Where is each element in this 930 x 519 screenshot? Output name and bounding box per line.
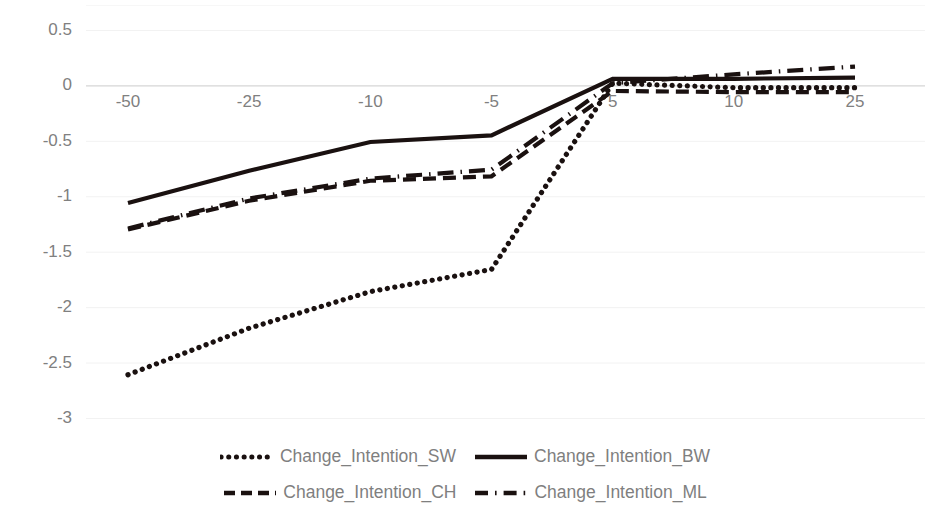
chart-legend: Change_Intention_SWChange_Intention_BWCh… [0, 440, 930, 519]
y-tick-label: -3 [0, 409, 72, 426]
y-tick-label: -0.5 [0, 132, 72, 149]
legend-item-change-intention-sw[interactable]: Change_Intention_SW [220, 448, 456, 466]
gridlines-group [86, 6, 925, 419]
legend-line-swatch-dash-dot [474, 486, 528, 500]
legend-row: Change_Intention_CHChange_Intention_ML [0, 484, 930, 502]
chart-container: 0.50-0.5-1-1.5-2-2.5-3 -50-25-10-551025 … [0, 0, 930, 519]
legend-item-change-intention-ch[interactable]: Change_Intention_CH [223, 484, 456, 502]
legend-item-label: Change_Intention_BW [534, 448, 710, 466]
legend-line-swatch-dashed [223, 486, 277, 500]
legend-item-change-intention-ml[interactable]: Change_Intention_ML [474, 484, 706, 502]
y-tick-label: -2.5 [0, 354, 72, 371]
legend-row: Change_Intention_SWChange_Intention_BW [0, 448, 930, 466]
y-tick-label: -1.5 [0, 243, 72, 260]
legend-line-swatch-solid [474, 450, 528, 464]
legend-item-label: Change_Intention_CH [283, 484, 456, 502]
series-line-change-intention-sw [128, 83, 855, 375]
legend-item-change-intention-bw[interactable]: Change_Intention_BW [474, 448, 710, 466]
plot-area [0, 0, 930, 440]
legend-line-swatch-dotted [220, 450, 274, 464]
legend-item-label: Change_Intention_ML [534, 484, 706, 502]
x-tick-label: 25 [815, 93, 895, 110]
series-line-change-intention-ch [128, 91, 855, 230]
y-tick-label: -2 [0, 298, 72, 315]
y-tick-label: -1 [0, 187, 72, 204]
y-tick-label: 0 [0, 76, 72, 93]
x-tick-label: 10 [694, 93, 774, 110]
legend-item-label: Change_Intention_SW [280, 448, 456, 466]
x-tick-label: -50 [88, 93, 168, 110]
series-group [128, 67, 855, 375]
x-tick-label: -5 [452, 93, 532, 110]
x-tick-label: -25 [209, 93, 289, 110]
y-tick-label: 0.5 [0, 21, 72, 38]
x-tick-label: 5 [573, 93, 653, 110]
x-tick-label: -10 [330, 93, 410, 110]
